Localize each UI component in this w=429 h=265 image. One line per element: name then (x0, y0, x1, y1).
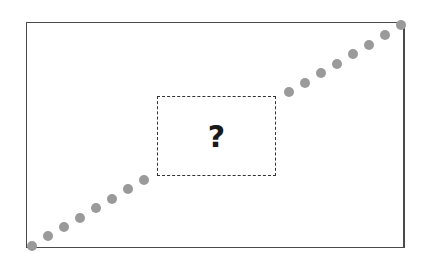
question-mark: ? (158, 97, 275, 175)
dot (139, 175, 149, 185)
dot (348, 49, 358, 59)
dot (107, 194, 117, 204)
dot (43, 231, 53, 241)
dot (123, 184, 133, 194)
dot (59, 222, 69, 232)
dot (364, 40, 374, 50)
dot (316, 68, 326, 78)
hidden-region-box: ? (157, 96, 276, 176)
dot (396, 20, 406, 30)
dot (27, 241, 37, 251)
dot (75, 213, 85, 223)
dot (300, 78, 310, 88)
dot (284, 87, 294, 97)
dot (332, 59, 342, 69)
dot (91, 203, 101, 213)
dot (380, 30, 390, 40)
